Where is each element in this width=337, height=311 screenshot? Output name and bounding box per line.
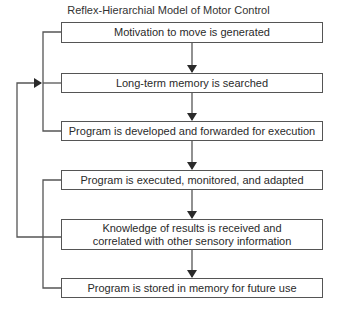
box-label: Knowledge of results is received and cor… [92,222,292,248]
box-label: Program is developed and forwarded for e… [69,125,315,138]
box-label: Program is executed, monitored, and adap… [80,174,303,187]
box-motivation: Motivation to move is generated [61,22,323,43]
connector-lines [0,0,337,311]
box-program-stored: Program is stored in memory for future u… [61,278,323,298]
box-knowledge-results: Knowledge of results is received and cor… [61,219,323,250]
box-program-executed: Program is executed, monitored, and adap… [61,170,323,190]
box-memory-search: Long-term memory is searched [61,73,323,93]
box-label: Program is stored in memory for future u… [87,282,296,295]
box-label: Motivation to move is generated [114,26,270,39]
box-label: Long-term memory is searched [116,77,268,90]
box-program-developed: Program is developed and forwarded for e… [61,121,323,141]
